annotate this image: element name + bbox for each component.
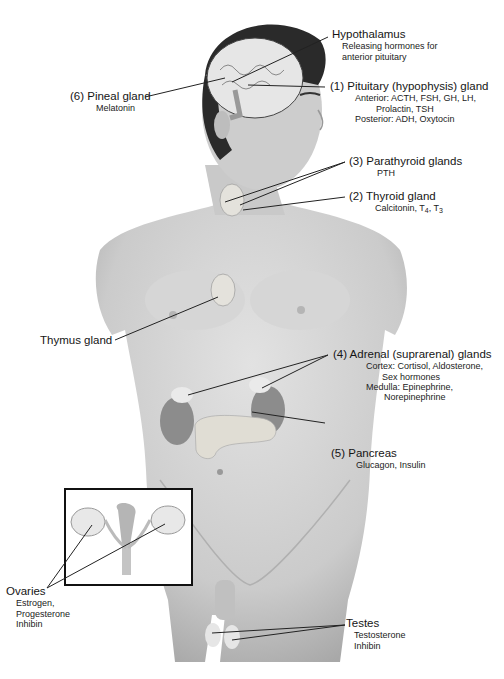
- label-adrenal: (4) Adrenal (suprarenal) glands Cortex: …: [333, 348, 492, 403]
- label-parathyroid: (3) Parathyroid glands PTH: [349, 155, 462, 179]
- ovary-left-shape: [71, 508, 105, 536]
- label-pituitary: (1) Pituitary (hypophysis) gland Anterio…: [330, 80, 489, 124]
- label-thyroid: (2) Thyroid gland Calcitonin, T4, T3: [349, 190, 443, 215]
- testis-right: [224, 625, 240, 649]
- label-pancreas: (5) Pancreas Glucagon, Insulin: [331, 447, 426, 471]
- label-thymus: Thymus gland: [40, 334, 112, 347]
- label-pineal: (6) Pineal gland Melatonin: [70, 90, 151, 114]
- testis-left: [205, 623, 221, 647]
- label-hypothalamus: Hypothalamus Releasing hormones for ante…: [332, 28, 438, 62]
- thyroid-hormones: Calcitonin, T4, T3: [349, 203, 443, 215]
- thymus-gland-shape: [211, 274, 235, 306]
- label-ovaries: Ovaries Estrogen, Progesterone Inhibin: [6, 585, 70, 629]
- left-kidney: [160, 397, 194, 445]
- brain: [207, 38, 303, 118]
- label-testes: Testes Testosterone Inhibin: [346, 617, 406, 651]
- ovary-right-shape: [151, 506, 185, 534]
